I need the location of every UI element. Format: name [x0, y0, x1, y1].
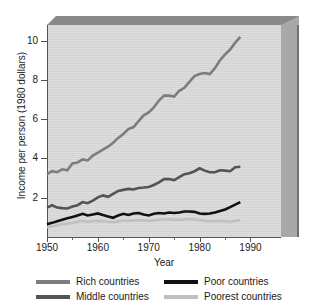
- x-tick-label: 1970: [129, 243, 169, 253]
- series-line: [47, 167, 240, 209]
- chart-legend: Rich countriesPoor countriesMiddle count…: [36, 274, 316, 304]
- legend-label: Poor countries: [204, 277, 268, 287]
- chart-figure: 246810 19501960197019801990 Income per p…: [0, 0, 328, 307]
- legend-label: Middle countries: [76, 292, 149, 302]
- x-axis-line: [47, 237, 281, 238]
- y-axis-label: Income per person (1980 dollars): [16, 21, 27, 231]
- series-container: [47, 25, 281, 237]
- x-tick-label: 1990: [230, 243, 270, 253]
- plot-frame-top-bevel: [47, 16, 299, 25]
- legend-label: Rich countries: [76, 277, 139, 287]
- x-tick-label: 1980: [180, 243, 220, 253]
- legend-item[interactable]: Rich countries: [36, 274, 156, 289]
- x-axis-label: Year: [47, 257, 281, 268]
- legend-swatch-icon: [164, 295, 198, 299]
- x-tick-minor: [72, 237, 73, 240]
- series-line: [47, 219, 240, 227]
- series-line: [47, 37, 240, 174]
- legend-swatch-icon: [36, 280, 70, 284]
- legend-swatch-icon: [164, 280, 198, 284]
- legend-item[interactable]: Poorest countries: [164, 289, 304, 304]
- x-tick-minor: [174, 237, 175, 240]
- legend-item[interactable]: Middle countries: [36, 289, 156, 304]
- legend-item[interactable]: Poor countries: [164, 274, 304, 289]
- x-tick-minor: [225, 237, 226, 240]
- legend-swatch-icon: [36, 295, 70, 299]
- plot-frame-right-edge: [297, 25, 299, 237]
- x-tick-minor: [123, 237, 124, 240]
- x-tick-label: 1960: [78, 243, 118, 253]
- legend-label: Poorest countries: [204, 292, 282, 302]
- x-tick-label: 1950: [27, 243, 67, 253]
